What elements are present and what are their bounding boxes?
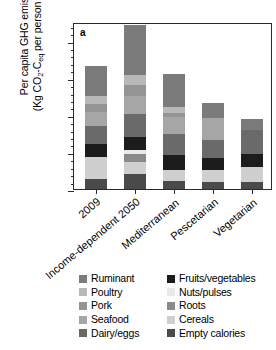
- bar-2009[interactable]: [85, 66, 107, 189]
- y-tick-minor: [71, 95, 75, 96]
- x-tick-label: Pescetarian: [168, 196, 220, 243]
- bar-pescetarian[interactable]: [202, 103, 224, 189]
- bar-segment: [241, 119, 263, 130]
- plot-area: a: [73, 23, 272, 190]
- bar-segment: [85, 157, 107, 179]
- bar-segment: [85, 112, 107, 126]
- legend-label: Empty calories: [179, 328, 245, 339]
- y-tick-minor: [71, 87, 75, 88]
- bar-segment: [163, 134, 185, 154]
- legend-swatch-icon: [79, 316, 87, 324]
- y-tick-major: [68, 43, 74, 44]
- legend-item[interactable]: Ruminant: [79, 272, 167, 286]
- y-axis-title-line1: Per capita GHG emissions: [18, 0, 31, 133]
- legend-swatch-icon: [79, 275, 87, 283]
- y-tick-minor: [71, 72, 75, 73]
- y-tick-minor: [71, 102, 75, 103]
- legend-swatch-icon: [167, 316, 175, 324]
- x-tick: [96, 189, 97, 194]
- legend-label: Roots: [179, 300, 205, 311]
- y-tick-minor: [71, 57, 75, 58]
- y-axis-title: Per capita GHG emissions (Kg CO2-Ceq per…: [18, 0, 47, 133]
- legend-item[interactable]: Poultry: [79, 286, 167, 300]
- legend-item[interactable]: Empty calories: [167, 326, 269, 340]
- legend-label: Pork: [91, 300, 112, 311]
- bar-segment: [124, 75, 146, 85]
- bar-segment: [163, 117, 185, 134]
- bar-segment: [124, 174, 146, 189]
- x-tick: [213, 189, 214, 194]
- bar-segment: [85, 126, 107, 144]
- legend-label: Seafood: [91, 314, 129, 325]
- y-tick-minor: [71, 109, 75, 110]
- y-tick-minor: [71, 124, 75, 125]
- y-tick-minor: [71, 28, 75, 29]
- bar-segment: [124, 25, 146, 75]
- legend-item[interactable]: Seafood: [79, 313, 167, 327]
- x-tick: [174, 189, 175, 194]
- bar-segment: [163, 181, 185, 189]
- bar-segment: [163, 155, 185, 170]
- legend-swatch-icon: [167, 288, 175, 296]
- y-axis-title-post: per person per year): [31, 0, 43, 54]
- y-tick-minor: [71, 139, 75, 140]
- y-tick-minor: [71, 169, 75, 170]
- y-tick-major: [68, 80, 74, 81]
- legend-label: Dairy/eggs: [91, 328, 139, 339]
- legend-item[interactable]: Nuts/pulses: [167, 286, 269, 300]
- bar-segment: [124, 114, 146, 137]
- y-tick-minor: [71, 132, 75, 133]
- y-axis-title-mid: -C: [31, 62, 43, 73]
- bar-segment: [202, 158, 224, 171]
- bar-segment: [163, 170, 185, 181]
- legend-swatch-icon: [167, 275, 175, 283]
- y-axis-title-line2: (Kg CO2-Ceq per person per year): [31, 0, 47, 133]
- x-tick-label: Income-dependent 2050: [43, 196, 142, 282]
- y-tick-minor: [71, 146, 75, 147]
- legend-swatch-icon: [167, 302, 175, 310]
- legend-label: Poultry: [91, 287, 122, 298]
- legend-swatch-icon: [79, 302, 87, 310]
- y-tick-minor: [71, 184, 75, 185]
- x-tick-label: Vegetarian: [211, 196, 259, 239]
- x-tick: [252, 189, 253, 194]
- y-tick-major: [68, 191, 74, 192]
- bar-segment: [124, 137, 146, 150]
- bar-segment: [202, 170, 224, 182]
- bar-mediterranean[interactable]: [163, 74, 185, 189]
- y-axis-title-sub-eq: eq: [36, 54, 45, 62]
- bar-segment: [124, 96, 146, 114]
- x-tick-label: Mediterranean: [119, 196, 181, 251]
- bar-segment: [85, 66, 107, 96]
- legend-item[interactable]: Pork: [79, 299, 167, 313]
- bar-segment: [124, 154, 146, 162]
- bar-segment: [85, 104, 107, 112]
- bar-segment: [163, 74, 185, 107]
- y-tick-minor: [71, 161, 75, 162]
- bar-segment: [124, 85, 146, 96]
- y-axis-title-sub-2: 2: [36, 73, 45, 77]
- legend-label: Ruminant: [91, 273, 134, 284]
- bar-segment: [124, 162, 146, 174]
- bar-segment: [202, 118, 224, 140]
- bar-vegetarian[interactable]: [241, 119, 263, 189]
- bar-segment: [85, 179, 107, 189]
- x-tick: [135, 189, 136, 194]
- bar-segment: [202, 182, 224, 189]
- legend-item[interactable]: Dairy/eggs: [79, 326, 167, 340]
- legend-label: Nuts/pulses: [179, 287, 232, 298]
- bar-segment: [85, 144, 107, 157]
- bar-segment: [241, 154, 263, 167]
- bar-segment: [241, 130, 263, 154]
- bar-income-dependent-2050[interactable]: [124, 25, 146, 189]
- y-axis-title-pre: (Kg CO: [31, 77, 43, 111]
- x-tick-label: 2009: [76, 196, 102, 221]
- bar-segment: [85, 96, 107, 103]
- legend-item[interactable]: Cereals: [167, 313, 269, 327]
- legend-item[interactable]: Fruits/vegetables: [167, 272, 269, 286]
- legend-swatch-icon: [167, 329, 175, 337]
- y-tick-minor: [71, 50, 75, 51]
- legend-item[interactable]: Roots: [167, 299, 269, 313]
- legend-swatch-icon: [79, 329, 87, 337]
- legend-label: Cereals: [179, 314, 214, 325]
